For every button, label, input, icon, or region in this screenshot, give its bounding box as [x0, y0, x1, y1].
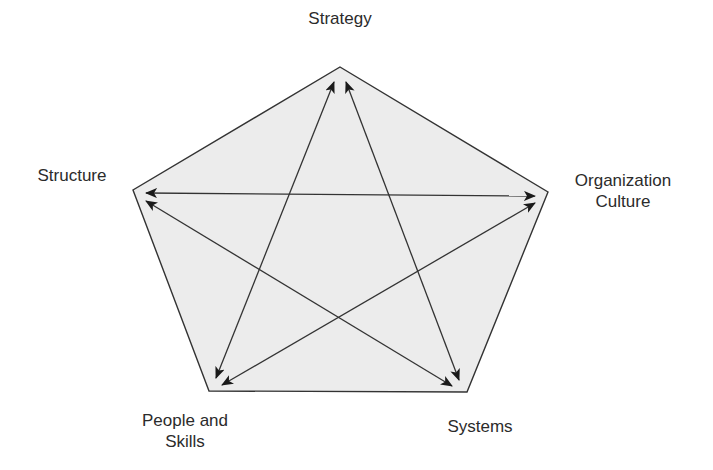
label-line: Systems — [440, 416, 520, 437]
diagram-canvas: Strategy Structure Organization Culture … — [0, 0, 713, 470]
label-line: Strategy — [300, 8, 380, 29]
label-line: Structure — [22, 165, 122, 186]
node-label-structure: Structure — [22, 165, 122, 186]
label-line: People and — [130, 410, 240, 431]
node-label-organization-culture: Organization Culture — [558, 170, 688, 212]
node-label-people-and-skills: People and Skills — [130, 410, 240, 452]
node-label-strategy: Strategy — [300, 8, 380, 29]
node-label-systems: Systems — [440, 416, 520, 437]
label-line: Skills — [130, 431, 240, 452]
pentagon-shape — [133, 67, 548, 392]
label-line: Organization — [558, 170, 688, 191]
label-line: Culture — [558, 191, 688, 212]
pentagon-diagram — [0, 0, 713, 470]
